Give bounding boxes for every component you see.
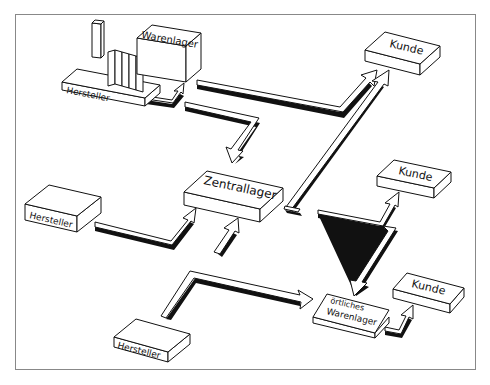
node-factory-warenlager: Warenlager [137, 25, 201, 82]
distribution-diagram: Hersteller Warenlager Kunde Hersteller Z… [0, 0, 490, 385]
